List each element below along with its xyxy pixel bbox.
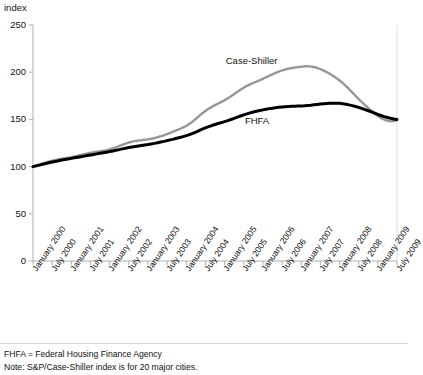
- y-axis-tick-label: 50: [0, 209, 26, 219]
- series-label-fhfa: FHFA: [245, 115, 269, 126]
- data-series-layer: [33, 66, 397, 166]
- y-axis-tick-label: 250: [0, 20, 26, 30]
- y-axis-tick-label: 100: [0, 162, 26, 172]
- chart-footnotes: FHFA = Federal Housing Finance Agency No…: [4, 348, 404, 373]
- y-axis-tick-label: 200: [0, 67, 26, 77]
- footer-divider: [0, 343, 408, 344]
- y-axis-tick-label: 150: [0, 114, 26, 124]
- series-line-fhfa: [33, 103, 397, 166]
- footnote-abbreviation: FHFA = Federal Housing Finance Agency: [4, 348, 404, 361]
- footnote-source: Note: S&P/Case-Shiller index is for 20 m…: [4, 361, 404, 374]
- y-axis-ticks: [29, 25, 33, 261]
- series-label-case-shiller: Case-Shiller: [226, 55, 278, 66]
- series-line-case-shiller: [33, 66, 397, 166]
- y-axis-unit-label: index: [4, 2, 27, 13]
- y-axis-tick-label: 0: [0, 256, 26, 266]
